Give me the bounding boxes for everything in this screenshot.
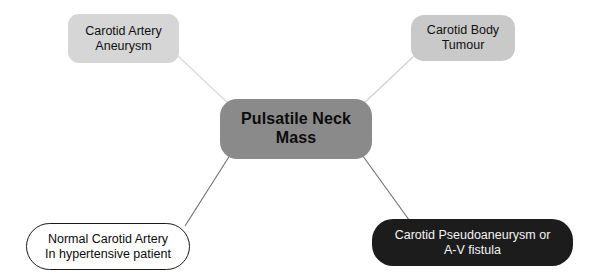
node-label-carotid-artery-aneurysm: Carotid Artery Aneurysm: [85, 24, 161, 54]
node-label-normal-carotid-artery: Normal Carotid Artery In hypertensive pa…: [45, 232, 171, 262]
node-label-carotid-body-tumour: Carotid Body Tumour: [427, 23, 499, 53]
node-normal-carotid-artery[interactable]: Normal Carotid Artery In hypertensive pa…: [26, 223, 190, 270]
node-label-pulsatile-neck-mass: Pulsatile Neck Mass: [241, 110, 351, 148]
node-carotid-pseudoaneurysm-av-fistula[interactable]: Carotid Pseudoaneurysm or A-V fistula: [372, 219, 573, 266]
connector-center-to-top-left: [178, 56, 231, 106]
connector-center-to-bottom-left: [185, 152, 232, 226]
node-carotid-body-tumour[interactable]: Carotid Body Tumour: [411, 15, 515, 61]
node-pulsatile-neck-mass[interactable]: Pulsatile Neck Mass: [220, 99, 372, 159]
connector-center-to-bottom-right: [360, 152, 412, 224]
node-label-carotid-pseudoaneurysm-av-fistula: Carotid Pseudoaneurysm or A-V fistula: [395, 228, 551, 258]
connector-center-to-top-right: [361, 56, 414, 106]
node-carotid-artery-aneurysm[interactable]: Carotid Artery Aneurysm: [68, 14, 179, 63]
diagram-canvas: Carotid Artery Aneurysm Carotid Body Tum…: [0, 0, 598, 280]
